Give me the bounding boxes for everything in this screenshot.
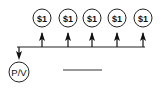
cash-flow-label: $1	[138, 14, 148, 24]
present-value-label: P/V	[11, 67, 27, 78]
cash-flow-node: $1	[33, 9, 51, 47]
present-value-node: P/V	[9, 47, 29, 82]
cash-flow-node: $1	[83, 9, 101, 47]
cash-flow-label: $1	[87, 14, 97, 24]
cash-flow-node: $1	[59, 9, 77, 47]
cash-flow-node: $1	[108, 9, 126, 47]
cash-flow-label: $1	[63, 14, 73, 24]
cash-flow-node: $1	[134, 9, 152, 47]
cash-flow-label: $1	[37, 14, 47, 24]
annuity-timeline-diagram: $1 $1 $1 $1 $1 P/V	[0, 0, 165, 89]
cash-flow-label: $1	[112, 14, 122, 24]
